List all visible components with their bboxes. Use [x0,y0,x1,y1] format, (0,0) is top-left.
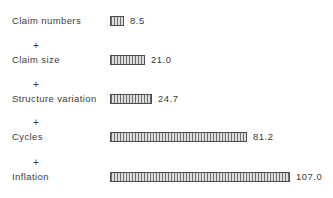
hatched-bar [110,172,290,182]
category-label: Cycles [12,131,43,143]
plus-sign: + [33,80,39,90]
hatched-bar [110,132,247,142]
value-label: 81.2 [253,131,274,143]
value-label: 8.5 [130,15,145,27]
bar-group: 8.5 [110,15,145,27]
bar-group: 81.2 [110,131,274,143]
bar-group: 24.7 [110,93,179,105]
chart-row: + Claim size 21.0 [0,54,333,66]
plus-sign: + [33,158,39,168]
hatched-bar [110,55,145,65]
hatched-bar [110,94,152,104]
waterfall-bar-chart: Claim numbers 8.5 + Claim size 21.0 + St… [0,0,333,198]
category-label: Inflation [12,171,49,183]
plus-sign: + [33,118,39,128]
hatched-bar [110,16,124,26]
value-label: 107.0 [296,171,322,183]
bar-group: 107.0 [110,171,322,183]
value-label: 21.0 [151,54,172,66]
chart-row: + Cycles 81.2 [0,131,333,143]
chart-row: + Structure variation 24.7 [0,93,333,105]
bar-group: 21.0 [110,54,172,66]
category-label: Claim size [12,54,60,66]
chart-row: + Inflation 107.0 [0,171,333,183]
category-label: Claim numbers [12,15,81,27]
value-label: 24.7 [158,93,179,105]
category-label: Structure variation [12,93,97,105]
chart-row: Claim numbers 8.5 [0,15,333,27]
plus-sign: + [33,41,39,51]
